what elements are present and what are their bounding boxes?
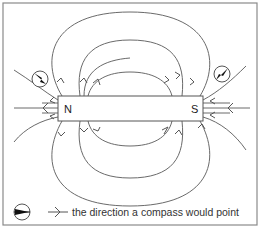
bar-magnet: N S <box>58 96 203 121</box>
south-pole-label: S <box>191 103 198 115</box>
compass-right-icon <box>214 66 230 82</box>
north-pole-label: N <box>64 103 72 115</box>
field-lines-bottom <box>52 121 210 206</box>
compass-left-icon <box>32 71 48 87</box>
legend: the direction a compass would point <box>14 204 239 220</box>
field-lines-top <box>52 12 210 96</box>
legend-text: the direction a compass would point <box>72 206 239 218</box>
magnetic-field-diagram: N S the direction a compass would point <box>0 0 260 228</box>
legend-arrow-icon <box>48 207 68 217</box>
legend-compass-icon <box>14 204 30 220</box>
